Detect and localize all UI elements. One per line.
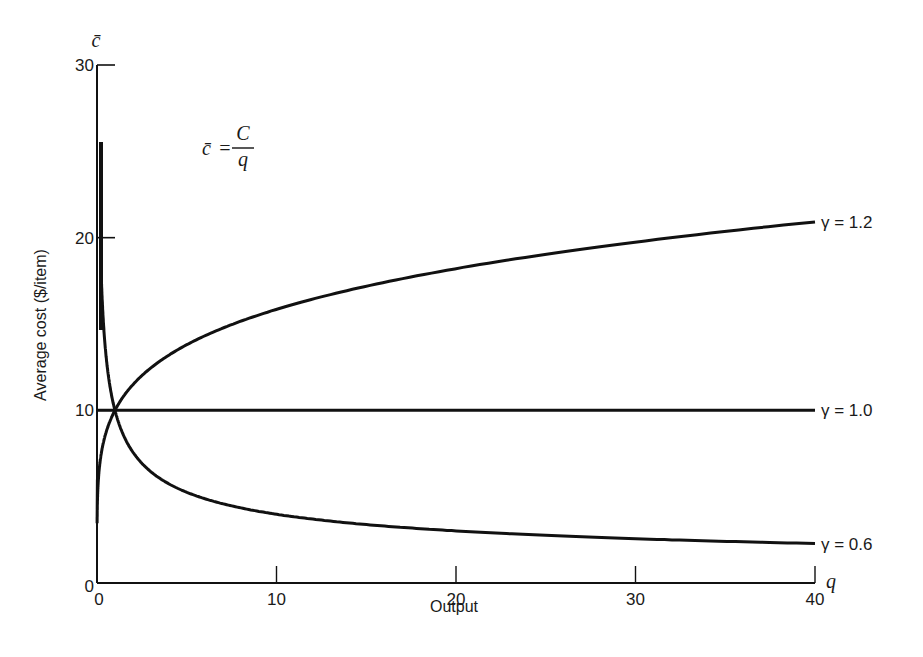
curves — [97, 142, 815, 544]
formula-annotation: c̄ = C q — [202, 122, 254, 171]
average-cost-chart: 0102030 010203040 γ = 1.2γ = 1.0γ = 0.6 … — [0, 0, 923, 657]
curve-label: γ = 1.2 — [821, 213, 873, 232]
curve-label: γ = 0.6 — [821, 535, 873, 554]
svg-text:C: C — [236, 122, 250, 144]
x-tick-label: 40 — [806, 590, 825, 609]
svg-text:q: q — [238, 148, 248, 171]
y-tick-label: 0 — [85, 577, 94, 596]
y-tick-label: 20 — [75, 229, 94, 248]
curve-gamma-1-2 — [97, 222, 815, 523]
curve-labels: γ = 1.2γ = 1.0γ = 0.6 — [821, 213, 873, 554]
svg-text:=: = — [218, 137, 232, 159]
x-axis-label: Output — [430, 598, 479, 615]
y-axis-label: Average cost ($/item) — [32, 249, 49, 401]
curve-gamma-0-6 — [101, 264, 815, 544]
curve-label: γ = 1.0 — [821, 401, 873, 420]
y-tick-label: 30 — [75, 56, 94, 75]
y-tick-label: 10 — [75, 401, 94, 420]
x-tick-label: 30 — [626, 590, 645, 609]
x-tick-label: 10 — [267, 590, 286, 609]
svg-text:c̄: c̄ — [202, 137, 211, 159]
x-tick-label: 0 — [94, 590, 103, 609]
x-axis-symbol: q — [826, 570, 836, 593]
y-ticks: 0102030 — [75, 56, 115, 596]
y-axis-symbol: c̄ — [92, 29, 101, 51]
